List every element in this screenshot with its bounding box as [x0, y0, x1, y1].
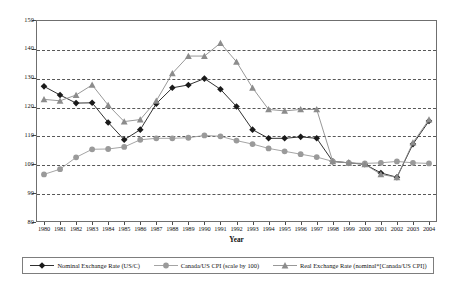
y-axis-labels: 8090100110120130140150: [0, 20, 34, 222]
legend-item-2[interactable]: Real Exchange Rate (nominal*[Canada/US C…: [272, 261, 427, 270]
x-tick-label-1987: 1987: [150, 225, 162, 232]
x-tick-label-1985: 1985: [118, 225, 130, 232]
x-tick-label-1980: 1980: [38, 225, 50, 232]
legend-swatch-diamond-icon: [29, 261, 55, 270]
x-tick-label-1981: 1981: [54, 225, 66, 232]
x-tick-label-1982: 1982: [70, 225, 82, 232]
x-tick-label-1988: 1988: [166, 225, 178, 232]
chart-root: 8090100110120130140150 19801981198219831…: [0, 0, 455, 292]
legend-swatch-triangle-icon: [272, 261, 298, 270]
x-tick-label-2004: 2004: [423, 225, 435, 232]
legend-label-1: Canada/US CPI (scale by 100): [181, 262, 259, 269]
y-tick-label-150: 150: [4, 17, 34, 23]
x-tick-label-2002: 2002: [391, 225, 403, 232]
legend-item-0[interactable]: Nominal Exchange Rate (US/C): [29, 261, 140, 270]
x-tick-label-1993: 1993: [246, 225, 258, 232]
x-tick-label-2001: 2001: [375, 225, 387, 232]
y-tick-label-140: 140: [4, 45, 34, 51]
x-tick-label-1996: 1996: [295, 225, 307, 232]
series-1: [41, 133, 432, 178]
x-tick-label-1999: 1999: [343, 225, 355, 232]
y-tick-label-130: 130: [4, 74, 34, 80]
x-tick-label-1989: 1989: [182, 225, 194, 232]
y-tick-label-110: 110: [4, 132, 34, 138]
x-tick-label-1998: 1998: [327, 225, 339, 232]
x-axis-title: Year: [36, 236, 437, 244]
series-2: [41, 40, 433, 180]
legend-swatch-circle-icon: [153, 261, 179, 270]
x-tick-label-1992: 1992: [230, 225, 242, 232]
x-tick-label-2000: 2000: [359, 225, 371, 232]
x-tick-label-1997: 1997: [311, 225, 323, 232]
x-tick-label-1986: 1986: [134, 225, 146, 232]
x-tick-label-1994: 1994: [262, 225, 274, 232]
series-0: [41, 75, 433, 180]
y-tick-label-120: 120: [4, 103, 34, 109]
x-tick-label-2003: 2003: [407, 225, 419, 232]
chart-legend: Nominal Exchange Rate (US/C)Canada/US CP…: [22, 257, 434, 274]
legend-label-2: Real Exchange Rate (nominal*[Canada/US C…: [300, 262, 427, 269]
x-tick-label-1995: 1995: [279, 225, 291, 232]
y-tick-label-80: 80: [4, 219, 34, 225]
legend-label-0: Nominal Exchange Rate (US/C): [57, 262, 140, 269]
x-tick-label-1991: 1991: [214, 225, 226, 232]
y-tick-label-90: 90: [4, 190, 34, 196]
x-tick-label-1984: 1984: [102, 225, 114, 232]
x-tick-label-1990: 1990: [198, 225, 210, 232]
legend-item-1[interactable]: Canada/US CPI (scale by 100): [153, 261, 259, 270]
x-tick-label-1983: 1983: [86, 225, 98, 232]
data-series-layer: [36, 20, 437, 222]
y-tick-label-100: 100: [4, 161, 34, 167]
